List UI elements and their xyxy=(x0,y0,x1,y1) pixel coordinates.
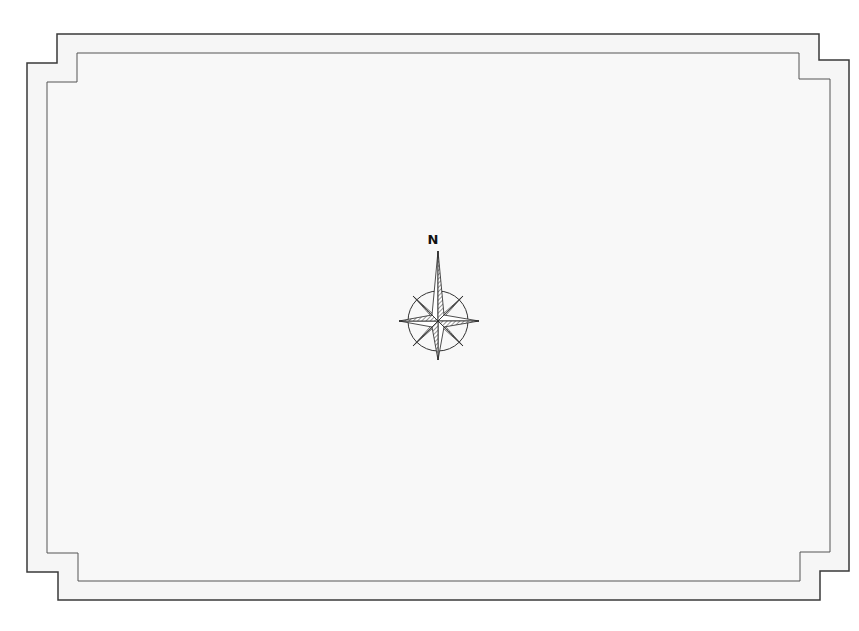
map-canvas: N xyxy=(0,0,859,631)
compass-north-label: N xyxy=(428,232,439,247)
